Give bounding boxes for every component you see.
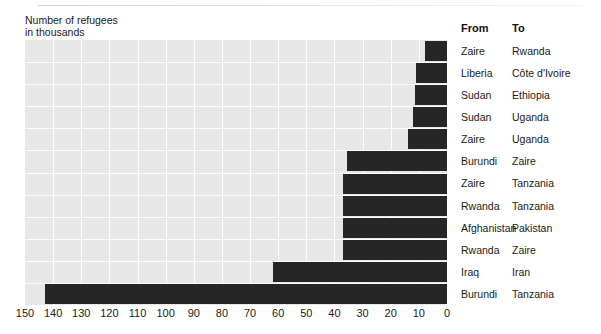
bar (273, 262, 447, 282)
legend-cell-from: Sudan (461, 111, 491, 123)
bar (343, 196, 447, 216)
legend-row: IraqIran (461, 261, 601, 283)
bar-series (25, 40, 447, 305)
legend-header-row: From To (461, 18, 601, 40)
bar (45, 284, 447, 304)
legend-cell-to: Tanzania (512, 177, 554, 189)
x-axis-tick-label: 100 (156, 307, 174, 319)
legend-cell-to: Iran (512, 266, 530, 278)
x-axis-tick-label: 10 (413, 307, 425, 319)
x-axis-tick-label: 20 (385, 307, 397, 319)
legend-header-to: To (512, 22, 525, 34)
legend-row: SudanEthiopia (461, 84, 601, 106)
legend-cell-from: Rwanda (461, 200, 500, 212)
legend-cell-from: Rwanda (461, 244, 500, 256)
chart-page: Number of refugees in thousands 15014013… (0, 0, 601, 334)
legend-rows: ZaireRwandaLiberiaCôte d'IvoireSudanEthi… (461, 40, 601, 305)
legend-cell-to: Ethiopia (512, 89, 550, 101)
legend-row: RwandaZaire (461, 239, 601, 261)
legend-cell-to: Côte d'Ivoire (512, 67, 571, 79)
x-axis-tick-label: 50 (300, 307, 312, 319)
bar (425, 41, 448, 61)
bar (415, 85, 447, 105)
legend-cell-from: Iraq (461, 266, 479, 278)
legend-cell-from: Zaire (461, 45, 485, 57)
x-axis-tick-label: 130 (72, 307, 90, 319)
x-axis-tick-label: 120 (100, 307, 118, 319)
legend-row: RwandaTanzania (461, 195, 601, 217)
legend-cell-from: Burundi (461, 288, 497, 300)
x-axis-tick-label: 70 (244, 307, 256, 319)
legend-row: ZaireUganda (461, 128, 601, 150)
x-axis-tick-label: 110 (129, 307, 147, 319)
legend-row: ZaireTanzania (461, 172, 601, 194)
legend-cell-to: Tanzania (512, 288, 554, 300)
x-axis-tick-label: 30 (356, 307, 368, 319)
legend-row: ZaireRwanda (461, 40, 601, 62)
x-axis-tick-label: 80 (216, 307, 228, 319)
plot-area (25, 40, 447, 305)
legend-cell-to: Tanzania (512, 200, 554, 212)
legend-cell-from: Sudan (461, 89, 491, 101)
bar (416, 63, 447, 83)
x-axis-tick-label: 0 (444, 307, 450, 319)
bar (343, 218, 447, 238)
bar (343, 174, 447, 194)
legend-cell-from: Zaire (461, 133, 485, 145)
x-axis-tick-label: 60 (272, 307, 284, 319)
legend-cell-from: Liberia (461, 67, 493, 79)
axis-title: Number of refugees in thousands (25, 14, 118, 38)
legend-row: BurundiTanzania (461, 283, 601, 305)
legend-row: SudanUganda (461, 106, 601, 128)
bar (347, 151, 447, 171)
legend-cell-to: Rwanda (512, 45, 551, 57)
legend-row: BurundiZaire (461, 150, 601, 172)
legend-row: AfghanistanPakistan (461, 217, 601, 239)
x-axis-tick-label: 40 (328, 307, 340, 319)
x-axis-tick-label: 150 (16, 307, 34, 319)
legend-cell-to: Uganda (512, 111, 549, 123)
legend-header-from: From (461, 22, 489, 34)
legend-row: LiberiaCôte d'Ivoire (461, 62, 601, 84)
legend-cell-from: Afghanistan (461, 222, 516, 234)
legend-cell-to: Pakistan (512, 222, 552, 234)
bar (413, 107, 447, 127)
legend-cell-to: Zaire (512, 244, 536, 256)
legend-table: From To ZaireRwandaLiberiaCôte d'IvoireS… (461, 18, 601, 313)
header-divider (38, 5, 583, 6)
bar (408, 129, 447, 149)
legend-cell-to: Zaire (512, 155, 536, 167)
legend-cell-from: Burundi (461, 155, 497, 167)
legend-cell-from: Zaire (461, 177, 485, 189)
bar (343, 240, 447, 260)
legend-cell-to: Uganda (512, 133, 549, 145)
x-axis-tick-label: 140 (44, 307, 62, 319)
x-axis-tick-label: 90 (188, 307, 200, 319)
